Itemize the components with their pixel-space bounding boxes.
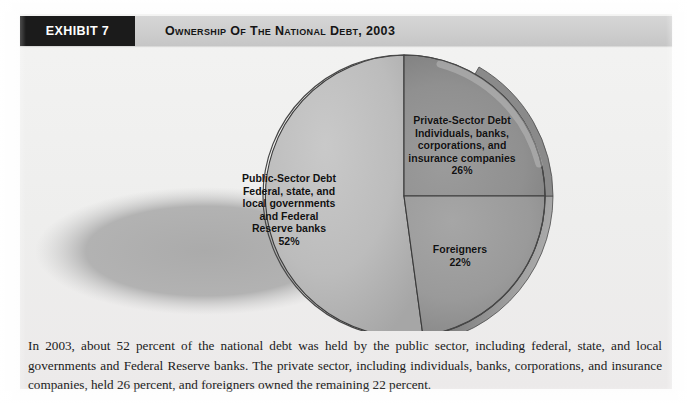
exhibit-number-label: EXHIBIT 7	[46, 24, 109, 38]
pie-label-public-sector: Public-Sector Debt Federal, state, and l…	[203, 172, 375, 248]
exhibit-caption: In 2003, about 52 percent of the nationa…	[28, 336, 662, 395]
pie-label-private-sector: Private-Sector Debt Individuals, banks, …	[376, 114, 548, 177]
exhibit-title: Ownership of the National Debt, 2003	[165, 16, 395, 46]
pie-label-foreigners: Foreigners 22%	[400, 243, 520, 268]
exhibit-number-tag: EXHIBIT 7	[20, 16, 135, 46]
pie-chart: Public-Sector Debt Federal, state, and l…	[20, 46, 672, 331]
